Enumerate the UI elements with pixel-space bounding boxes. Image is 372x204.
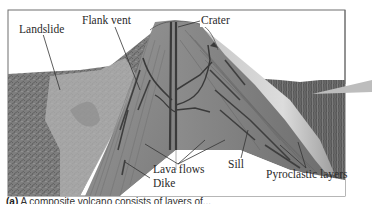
label-flank-vent: Flank vent [82, 15, 131, 27]
label-landslide: Landslide [19, 24, 64, 36]
label-sill: Sill [228, 159, 244, 171]
figure-caption: (a) A composite volcano consists of laye… [6, 197, 211, 204]
label-pyroclastic-layers: Pyroclastic layers [266, 169, 347, 181]
caption-text: A composite volcano consists of layers o… [20, 196, 211, 204]
caption-marker: (a) [6, 196, 18, 204]
label-lava-flows: Lava flows [153, 164, 204, 176]
label-crater: Crater [201, 15, 230, 27]
label-dike: Dike [153, 178, 175, 190]
